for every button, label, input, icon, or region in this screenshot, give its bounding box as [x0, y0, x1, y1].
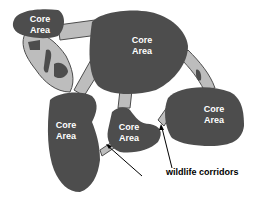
core-area-label-right: Core Area — [196, 104, 232, 126]
label-line2: Area — [111, 133, 147, 144]
habitat-network-diagram: Core Area Core Area Core Area Core Area … — [0, 0, 258, 199]
label-line1: Core — [111, 122, 147, 133]
core-area-label-top-left: Core Area — [22, 14, 58, 36]
label-line2: Area — [196, 115, 232, 126]
wildlife-corridors-callout: wildlife corridors — [166, 167, 239, 177]
core-area-label-left: Core Area — [48, 120, 84, 142]
core-left-shape — [48, 93, 100, 192]
label-line2: Area — [124, 46, 160, 57]
label-line2: Area — [22, 25, 58, 36]
label-line1: Core — [124, 35, 160, 46]
core-area-label-top-center: Core Area — [124, 35, 160, 57]
core-area-label-center-small: Core Area — [111, 122, 147, 144]
label-line1: Core — [48, 120, 84, 131]
label-line1: Core — [22, 14, 58, 25]
label-line2: Area — [48, 131, 84, 142]
label-line1: Core — [196, 104, 232, 115]
